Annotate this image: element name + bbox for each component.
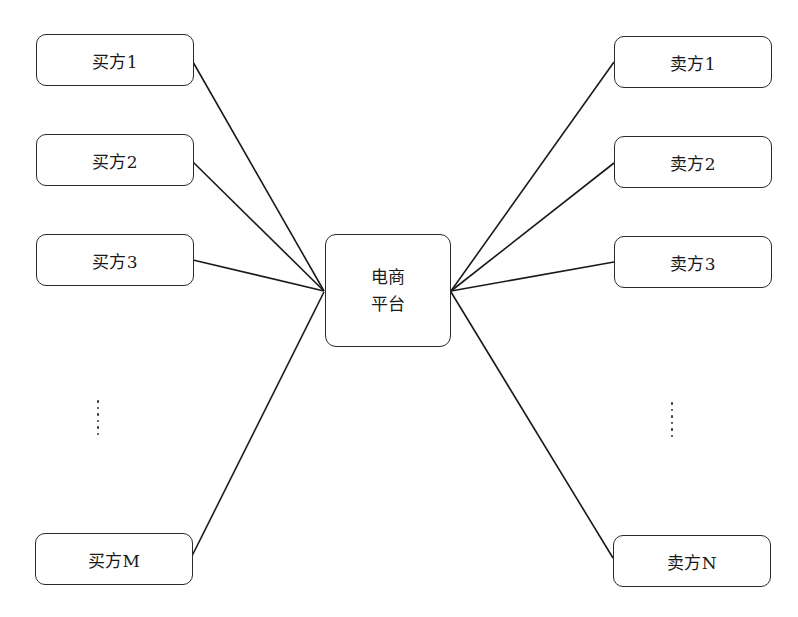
- edge-buyer-2-platform: [193, 162, 324, 291]
- buyer-node-3: 买方3: [36, 234, 194, 286]
- buyer-node-m: 买方M: [35, 533, 193, 585]
- buyer-label: 买方2: [92, 148, 138, 173]
- seller-label: 卖方3: [670, 250, 716, 275]
- edge-buyer-m-platform: [192, 292, 324, 556]
- platform-node: 电商 平台: [325, 234, 451, 347]
- edge-buyer-1-platform: [193, 62, 324, 291]
- platform-label-line-2: 平台: [371, 291, 406, 318]
- edge-platform-seller-3: [451, 262, 614, 291]
- seller-ellipsis: [670, 402, 674, 437]
- buyer-ellipsis: [96, 400, 100, 435]
- seller-label: 卖方N: [667, 549, 717, 574]
- seller-node-n: 卖方N: [613, 535, 771, 587]
- buyer-label: 买方1: [92, 48, 138, 73]
- edge-platform-seller-1: [451, 62, 614, 291]
- seller-node-3: 卖方3: [614, 236, 772, 288]
- buyer-node-2: 买方2: [36, 134, 194, 186]
- platform-label-line-1: 电商: [371, 264, 406, 291]
- edge-buyer-3-platform: [193, 260, 324, 291]
- edge-platform-seller-n: [451, 292, 613, 558]
- edge-platform-seller-2: [451, 163, 614, 291]
- seller-node-1: 卖方1: [614, 36, 772, 88]
- seller-node-2: 卖方2: [614, 136, 772, 188]
- seller-label: 卖方1: [670, 50, 716, 75]
- buyer-label: 买方3: [92, 248, 138, 273]
- buyer-node-1: 买方1: [36, 34, 194, 86]
- seller-label: 卖方2: [670, 150, 716, 175]
- buyer-label: 买方M: [88, 547, 141, 572]
